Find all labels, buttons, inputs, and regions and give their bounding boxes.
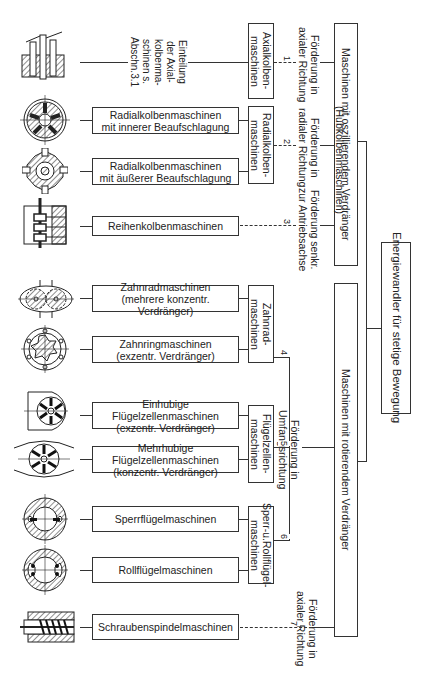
dconn-6: [80, 459, 92, 460]
machine-radial-outer: Radialkolbenmaschinen mit äußerer Beaufs…: [92, 158, 239, 185]
machine-gear-ring: Zahnringmaschinen (exzentr. Verdränger): [92, 336, 239, 363]
connector-group1: [357, 141, 367, 142]
direction-axial-rot-label: Förderung in axialer Richtung: [294, 585, 320, 673]
machine-inline-piston: Reihenkolbenmaschinen: [92, 216, 239, 236]
link-3: [240, 225, 296, 226]
number-7: 7: [288, 621, 300, 626]
gear-ring-pump-icon: [21, 325, 69, 373]
machine-locking-vane: Sperrflügelmaschinen: [92, 506, 239, 532]
dconn-9: [80, 627, 92, 628]
axial-piston-icon: [18, 30, 68, 85]
circ-bracket: [289, 357, 290, 540]
direction-1-label: Förderung in axialer Richtung: [296, 25, 322, 105]
mconn-4: [239, 349, 248, 350]
dconn-5: [80, 415, 92, 416]
link-1: [274, 62, 296, 63]
number-6: 6: [278, 534, 290, 539]
root-box: Energiewandler für stetige Bewegung: [381, 242, 411, 414]
machine-radial-inner: Radialkolbenmaschinen mit innerer Beaufs…: [92, 107, 239, 134]
dconn-8: [80, 570, 92, 571]
dir2-connector: [320, 145, 334, 146]
connector-root-trunk: [366, 141, 367, 461]
connector-group2: [357, 461, 367, 462]
category-axial-piston: Axialkolben- maschinen: [248, 23, 274, 99]
screw-spindle-icon: [18, 610, 76, 644]
dconn-2: [80, 226, 92, 227]
machine-screw-spindle: Schraubenspindelmaschinen: [92, 614, 239, 640]
link-2: [274, 145, 296, 146]
radial-piston-outer-icon: [22, 148, 68, 194]
axial-piston-note: Einteilung der Axial- kolbenma- schinen …: [128, 22, 188, 102]
mconn-1: [239, 171, 248, 172]
roller-vane-icon: [22, 545, 68, 595]
category-locking-roller: Sperr-u.Rollflügel- maschinen: [248, 506, 274, 584]
mconn-6: [239, 459, 248, 460]
direction-3-label: Förderung senkr. zur Antriebsachse: [296, 188, 322, 272]
mconn-7: [239, 519, 248, 520]
dir-circ-connector: [302, 447, 334, 448]
gear-pump-icon: [18, 278, 74, 320]
number-2: 2: [281, 139, 293, 144]
dconn-7: [80, 519, 92, 520]
dconn-3: [80, 298, 92, 299]
dir1-connector: [320, 62, 334, 63]
single-stroke-vane-icon: [24, 388, 68, 434]
machine-multi-vane: Mehrhubige Flügelzellenmaschinen (konzen…: [92, 446, 239, 473]
category-gear: Zahnrad- maschinen: [248, 285, 274, 363]
dconn-4: [80, 349, 92, 350]
root-title: Energiewandler für stetige Bewegung: [390, 232, 403, 423]
group-rotating-box: Maschinen mit rotierendem Verdränger: [334, 283, 358, 637]
connector-root: [366, 328, 381, 329]
direction-2-label: Förderung in radialer Richtung: [296, 108, 322, 188]
number-3: 3: [281, 219, 293, 224]
number-4: 4: [278, 350, 290, 355]
group-oscillating-subtitle: (Hubkolbenmaschinen): [334, 100, 346, 220]
link-7: [240, 627, 312, 628]
category-vane: Flügelzellen- maschinen: [248, 405, 274, 483]
machine-single-vane: Einhubige Flügelzellenmaschinen (exzentr…: [92, 402, 239, 429]
number-1: 1: [281, 56, 293, 61]
machine-roller-vane: Rollflügelmaschinen: [92, 557, 239, 583]
dconn-1: [80, 171, 92, 172]
mconn-3: [239, 298, 248, 299]
root-label: Energiewandler für stetige Bewegung: [382, 243, 410, 413]
multi-stroke-vane-icon: [14, 438, 74, 480]
machine-gear: Zahnradmaschinen (mehrere konzentr. Verd…: [92, 285, 239, 312]
group-rotating-label: Maschinen mit rotierendem Verdränger: [335, 284, 357, 636]
locking-vane-icon: [22, 494, 68, 544]
inline-piston-icon: [22, 198, 68, 248]
dconn-0: [80, 120, 92, 121]
mconn-0: [239, 120, 248, 121]
radial-piston-inner-icon: [20, 95, 70, 145]
number-5: 5: [278, 441, 290, 446]
category-radial-piston: Radialkolben- maschinen: [248, 106, 274, 184]
mconn-5: [239, 415, 248, 416]
dir3-connector: [320, 225, 334, 226]
mconn-8: [239, 570, 248, 571]
